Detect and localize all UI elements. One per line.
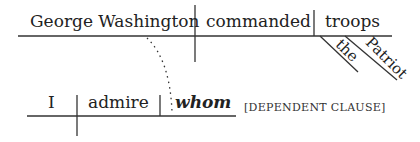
main-object: troops (325, 13, 380, 30)
dependent-clause-label: [DEPENDENT CLAUSE] (244, 101, 386, 114)
main-verb: commanded (206, 13, 311, 30)
sentence-diagram: George Washington commanded troops the P… (0, 0, 420, 142)
dep-subject: I (48, 94, 55, 111)
dep-object: whom (175, 94, 231, 111)
main-subject: George Washington (30, 13, 199, 30)
dep-verb: admire (88, 94, 149, 111)
